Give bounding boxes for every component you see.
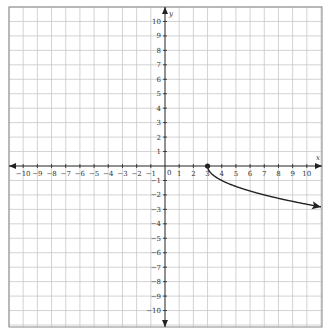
y-axis-label: y [168, 10, 174, 18]
y-tick-label: 4 [157, 105, 162, 113]
y-tick-label: −3 [151, 206, 161, 214]
x-tick-label: 7 [262, 170, 266, 178]
x-tick-label: −4 [103, 170, 114, 178]
y-tick-label: 6 [157, 76, 162, 84]
x-tick-label: −6 [75, 170, 86, 178]
y-tick-label: 3 [157, 119, 161, 127]
x-tick-label: −9 [32, 170, 42, 178]
x-tick-label: 9 [290, 170, 294, 178]
y-tick-label: 2 [157, 134, 161, 142]
x-tick-label: −2 [131, 170, 141, 178]
x-tick-label: 10 [302, 170, 311, 178]
x-tick-label: −7 [61, 170, 71, 178]
tick-labels: −10−9−8−7−6−5−4−3−2−112345678910−10−9−8−… [16, 10, 320, 315]
y-axis-arrow-up-icon [162, 7, 168, 14]
x-tick-label: 2 [191, 170, 195, 178]
y-tick-label: 5 [157, 90, 161, 98]
y-tick-label: −4 [151, 220, 162, 228]
coordinate-plane: −10−9−8−7−6−5−4−3−2−112345678910−10−9−8−… [0, 0, 327, 333]
y-tick-label: −10 [146, 307, 161, 315]
y-tick-label: 7 [157, 61, 161, 69]
x-tick-label: 5 [234, 170, 238, 178]
start-point-dot [205, 163, 210, 168]
y-tick-label: −2 [151, 191, 161, 199]
y-tick-label: 8 [157, 47, 161, 55]
y-tick-label: −7 [151, 264, 161, 272]
y-tick-label: −1 [151, 177, 161, 185]
origin-label: 0 [167, 169, 171, 177]
y-tick-label: −6 [151, 249, 162, 257]
y-tick-label: 10 [152, 18, 161, 26]
x-tick-label: −8 [46, 170, 56, 178]
x-axis-arrow-left-icon [9, 163, 16, 169]
y-tick-label: 9 [157, 32, 161, 40]
x-tick-label: 4 [219, 170, 224, 178]
x-tick-label: 8 [276, 170, 280, 178]
y-tick-label: −8 [151, 278, 161, 286]
x-tick-label: 6 [248, 170, 253, 178]
y-tick-label: 1 [157, 148, 161, 156]
x-tick-label: −5 [89, 170, 99, 178]
y-axis-arrow-down-icon [162, 320, 168, 327]
x-tick-label: 1 [177, 170, 181, 178]
x-tick-label: −10 [16, 170, 31, 178]
axes [9, 7, 322, 327]
y-tick-label: −9 [151, 293, 161, 301]
y-tick-label: −5 [151, 235, 161, 243]
x-tick-label: −3 [117, 170, 127, 178]
x-axis-label: x [316, 154, 320, 162]
